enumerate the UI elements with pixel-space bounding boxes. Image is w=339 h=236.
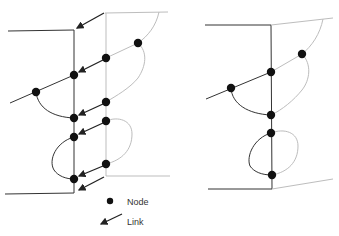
- right-back-top-curve: [302, 19, 323, 54]
- node: [102, 98, 110, 106]
- right-vertical-edge: [271, 25, 272, 189]
- hull-diagram-canvas: Node Link: [0, 0, 339, 236]
- left-back-diagonal: [106, 43, 138, 58]
- node: [102, 54, 110, 62]
- legend-node-label: Node: [127, 197, 149, 207]
- left-dark-lines: [5, 30, 74, 194]
- left-back-mid-curve: [106, 43, 145, 102]
- node: [70, 133, 78, 141]
- left-diagram: [5, 12, 170, 194]
- node: [70, 175, 78, 183]
- right-loop-light: [271, 131, 298, 175]
- left-back-top-curve: [138, 12, 159, 43]
- legend-link-label: Link: [127, 217, 144, 227]
- right-curve-upper: [231, 88, 271, 115]
- link-arrow: [79, 177, 104, 190]
- node: [268, 171, 276, 179]
- link-arrow: [79, 123, 103, 134]
- left-loop-dark: [52, 137, 74, 179]
- left-links: [77, 13, 104, 190]
- node: [227, 84, 235, 92]
- right-light-lines: [271, 18, 333, 189]
- right-back-top-edge: [271, 18, 333, 25]
- node: [267, 68, 275, 76]
- right-back-bottom-edge: [272, 179, 333, 189]
- left-loop-light: [106, 119, 132, 164]
- legend-link-icon: [101, 214, 122, 224]
- node: [267, 129, 275, 137]
- left-light-lines: [105, 12, 170, 176]
- right-back-mid-curve: [271, 54, 309, 115]
- right-back-diagonal: [271, 54, 302, 72]
- node: [32, 88, 40, 96]
- left-curve-upper: [36, 92, 74, 118]
- node: [102, 117, 110, 125]
- right-loop-dark: [249, 133, 272, 175]
- link-arrow: [79, 60, 103, 72]
- node: [70, 114, 78, 122]
- link-arrow: [77, 13, 104, 28]
- right-diagonal-edge: [206, 72, 271, 99]
- right-dark-lines: [205, 25, 272, 189]
- node: [298, 50, 306, 58]
- node: [102, 160, 110, 168]
- node: [267, 111, 275, 119]
- left-diagonal-edge: [10, 75, 74, 103]
- node: [134, 39, 142, 47]
- left-top-edge: [8, 30, 74, 31]
- left-bottom-edge: [5, 193, 74, 194]
- node: [70, 71, 78, 79]
- legend: Node Link: [101, 197, 149, 228]
- legend-node-icon: [107, 198, 113, 204]
- link-arrow: [79, 166, 103, 176]
- right-diagram: [205, 18, 333, 189]
- link-arrow: [79, 104, 103, 115]
